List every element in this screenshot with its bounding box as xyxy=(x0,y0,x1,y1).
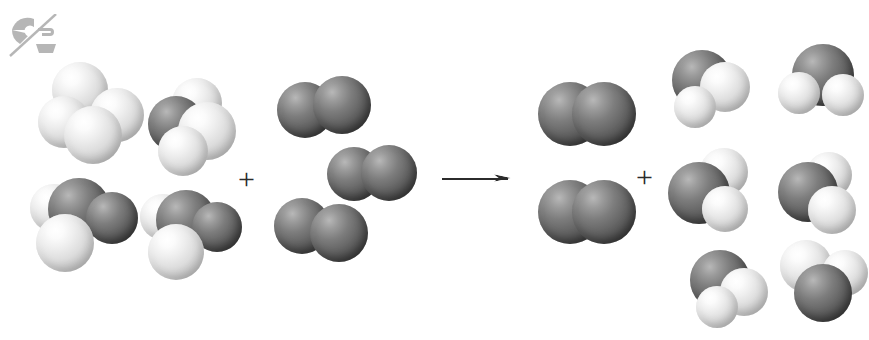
atom-hydrogen xyxy=(64,106,122,164)
molecule-methane xyxy=(30,178,142,278)
figure-canvas: . . . . . . . . xyxy=(0,0,869,340)
molecule-methane xyxy=(38,62,148,170)
plus-operator-1: + xyxy=(238,164,255,194)
molecule-water xyxy=(672,50,758,134)
molecule-carbon-dioxide xyxy=(538,180,642,252)
molecule-carbon-dioxide xyxy=(538,82,642,154)
atom-oxygen xyxy=(310,204,368,262)
atom-hydrogen xyxy=(148,224,204,280)
reactant-group-oxygen xyxy=(262,0,392,300)
atom-hydrogen xyxy=(36,214,94,272)
atom-hydrogen xyxy=(702,186,748,232)
molecule-methane xyxy=(140,190,246,290)
atom-hydrogen xyxy=(696,286,738,328)
molecule-oxygen xyxy=(277,76,377,142)
atom-hydrogen xyxy=(822,74,864,116)
atom-hydrogen xyxy=(808,186,856,234)
atom-carbon xyxy=(86,192,138,244)
molecule-water xyxy=(780,240,869,324)
product-group-carbon-dioxide xyxy=(530,0,640,300)
product-group-water xyxy=(660,0,869,340)
plus-operator-2: + xyxy=(636,162,653,192)
atom-oxygen xyxy=(794,264,852,322)
molecule-water xyxy=(778,44,866,128)
molecule-water xyxy=(690,250,776,332)
molecule-oxygen xyxy=(274,198,374,264)
molecule-water xyxy=(668,148,760,236)
atom-oxygen xyxy=(361,145,417,201)
molecule-methane xyxy=(148,78,252,182)
atom-hydrogen xyxy=(674,86,716,128)
atom-oxygen xyxy=(572,82,636,146)
reaction-arrow xyxy=(442,168,518,190)
molecule-water xyxy=(778,152,864,238)
atom-hydrogen xyxy=(158,126,208,176)
atom-oxygen xyxy=(313,76,371,134)
atom-oxygen xyxy=(572,180,636,244)
reactant-group-methane xyxy=(0,0,240,300)
atom-hydrogen xyxy=(778,72,820,114)
